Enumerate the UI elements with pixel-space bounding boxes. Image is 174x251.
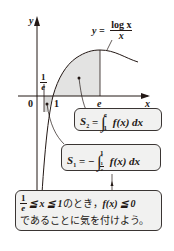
curve-label: y = log x x — [92, 20, 132, 41]
s1-formula-box: S1 = − ∫11e f(x) dx — [61, 144, 161, 171]
note-box: 1 e ≦ x ≦ 1のとき，f(x) ≦ 0 であることに気を付けよう。 — [15, 190, 162, 231]
leader-curve-label — [107, 40, 112, 50]
origin-label: 0 — [28, 99, 33, 109]
leader-s1 — [47, 104, 64, 144]
dot-s2 — [78, 77, 81, 80]
leader-note-arrow-icon — [111, 181, 114, 186]
y-axis-label: y — [29, 16, 33, 26]
note-line-1: 1 e ≦ x ≦ 1のとき，f(x) ≦ 0 — [20, 194, 136, 213]
y-axis-arrow-icon — [34, 16, 40, 26]
s2-formula-box: S2 = ∫e1 f(x) dx — [74, 108, 162, 131]
shaded-region-s2 — [53, 50, 100, 96]
note-line-2: であることに気を付けよう。 — [20, 216, 149, 226]
tick-one-label: 1 — [54, 99, 59, 109]
dot-s1 — [46, 103, 49, 106]
tick-recip-e-label: 1 e — [40, 73, 47, 92]
